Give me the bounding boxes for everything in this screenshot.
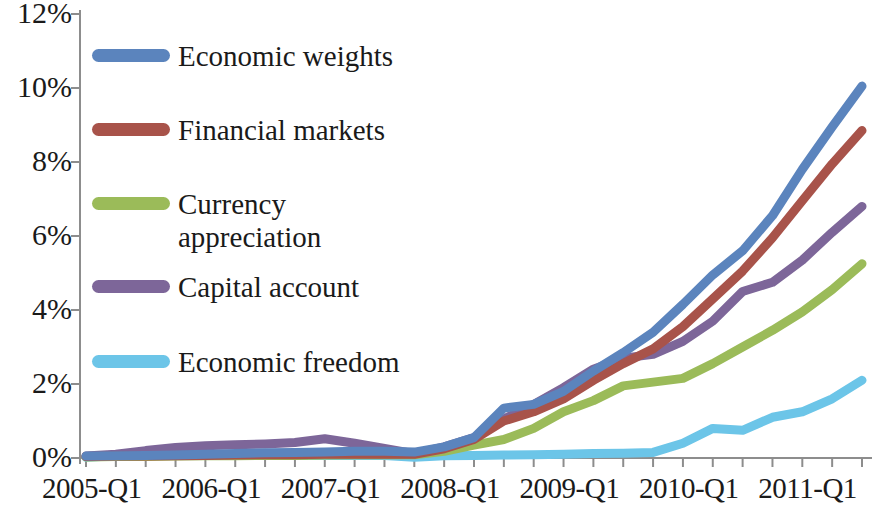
- legend-label: Financial markets: [178, 114, 385, 147]
- y-axis-tick-label: 2%: [4, 368, 72, 398]
- legend-label: Economic freedom: [178, 346, 399, 379]
- legend-item: Currency appreciation: [92, 188, 321, 254]
- x-axis-tick-label: 2007-Q1: [281, 472, 381, 505]
- legend-color-swatch: [92, 355, 170, 368]
- x-axis-tick-label: 2011-Q1: [758, 472, 857, 505]
- legend-color-swatch: [92, 280, 170, 293]
- legend-color-swatch: [92, 197, 170, 210]
- x-axis-tick-label: 2010-Q1: [639, 472, 739, 505]
- x-axis-tick-label: 2005-Q1: [42, 472, 142, 505]
- y-axis-tick-label: 0%: [4, 442, 72, 472]
- legend-label: Capital account: [178, 271, 359, 304]
- x-axis-tick-label: 2009-Q1: [520, 472, 620, 505]
- legend-color-swatch: [92, 123, 170, 136]
- y-axis-tick-label: 8%: [4, 146, 72, 176]
- legend-item: Financial markets: [92, 114, 385, 147]
- legend-item: Economic freedom: [92, 346, 399, 379]
- y-axis-tick-label: 4%: [4, 294, 72, 324]
- chart-plot-area: [0, 0, 874, 514]
- y-axis-tick-label: 6%: [4, 220, 72, 250]
- legend-item: Economic weights: [92, 40, 393, 73]
- x-axis-tick-labels: 2005-Q12006-Q12007-Q12008-Q12009-Q12010-…: [0, 472, 874, 514]
- legend-color-swatch: [92, 49, 170, 62]
- y-axis-tick-label: 12%: [4, 0, 72, 28]
- legend-label: Currency appreciation: [178, 188, 321, 254]
- legend-label: Economic weights: [178, 40, 393, 73]
- x-axis-tick-label: 2008-Q1: [400, 472, 500, 505]
- y-axis-tick-labels: 12%10%8%6%4%2%0%: [0, 0, 72, 480]
- chart-figure: 12%10%8%6%4%2%0% 2005-Q12006-Q12007-Q120…: [0, 0, 874, 514]
- y-axis-tick-label: 10%: [4, 72, 72, 102]
- legend-item: Capital account: [92, 271, 359, 304]
- x-axis-tick-label: 2006-Q1: [161, 472, 261, 505]
